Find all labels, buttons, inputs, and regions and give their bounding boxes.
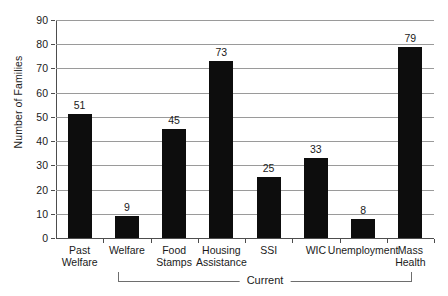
y-tick-mark [51,141,55,142]
group-bracket: Current [118,272,412,282]
y-tick-label: 60 [36,87,48,98]
bar [257,177,281,238]
x-tick-mark [387,239,388,243]
bar-value-label: 33 [296,144,336,155]
bar-chart: Number of Families 51945732533879 010203… [0,0,448,296]
y-tick-mark [51,68,55,69]
bar [351,219,375,238]
y-axis-title: Number of Families [12,22,24,182]
bar [162,129,186,238]
bar [398,47,422,238]
y-tick-label: 30 [36,160,48,171]
y-tick-label: 70 [36,63,48,74]
x-tick-mark [340,239,341,243]
y-tick-label: 50 [36,112,48,123]
x-axis-label-line: Assistance [183,256,259,268]
y-tick-label: 90 [36,15,48,26]
gridline [56,20,434,21]
gridline [56,93,434,94]
y-tick-mark [51,20,55,21]
bar [304,158,328,238]
y-tick-mark [51,44,55,45]
x-tick-mark [103,239,104,243]
x-axis-label: MassHealth [372,244,448,268]
y-tick-mark [51,117,55,118]
y-tick-mark [51,214,55,215]
gridline [56,165,434,166]
bar [115,216,139,238]
bar-value-label: 73 [201,47,241,58]
x-tick-mark [434,239,435,243]
y-tick-label: 20 [36,184,48,195]
y-tick-mark [51,165,55,166]
bar-value-label: 45 [154,115,194,126]
bracket-tick-right [411,272,412,282]
y-tick-mark [51,238,55,239]
x-axis-label-line: Welfare [42,256,118,268]
x-axis-label-line: Health [372,256,448,268]
gridline [56,190,434,191]
bar-value-label: 8 [343,205,383,216]
plot-area: 51945732533879 [56,20,434,238]
y-tick-mark [51,190,55,191]
gridline [56,117,434,118]
bar [209,61,233,238]
x-tick-mark [198,239,199,243]
bar-value-label: 25 [249,163,289,174]
bar-value-label: 51 [60,100,100,111]
bar-value-label: 9 [107,202,147,213]
gridline [56,141,434,142]
gridline [56,44,434,45]
x-tick-mark [151,239,152,243]
bar-value-label: 79 [390,33,430,44]
y-tick-label: 10 [36,209,48,220]
y-tick-mark [51,93,55,94]
x-tick-mark [245,239,246,243]
x-axis-label-line: Mass [372,244,448,256]
y-tick-label: 0 [42,233,48,244]
group-bracket-label: Current [240,274,291,287]
bar [68,114,92,238]
gridline [56,68,434,69]
x-tick-mark [292,239,293,243]
y-tick-label: 80 [36,39,48,50]
y-tick-label: 40 [36,136,48,147]
